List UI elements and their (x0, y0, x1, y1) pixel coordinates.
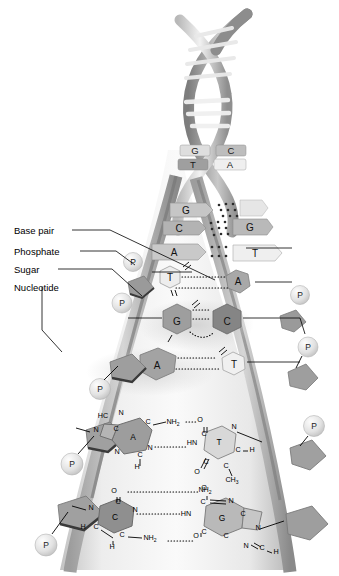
ladder-base-left-2: A (171, 247, 178, 258)
svg-text:C: C (113, 424, 118, 433)
svg-text:N: N (243, 541, 248, 550)
label-base-pair: Base pair (14, 225, 54, 236)
svg-text:P: P (69, 459, 75, 469)
double-helix-top (178, 14, 247, 232)
svg-text:O: O (201, 483, 207, 492)
svg-text:P: P (297, 290, 303, 300)
ladder-base-right-1: G (246, 222, 254, 233)
svg-text:C: C (145, 417, 150, 426)
phosphate-circle: P (112, 293, 132, 313)
phosphate-circle: P (35, 534, 57, 556)
svg-text:N: N (147, 443, 152, 452)
svg-text:H: H (80, 522, 85, 531)
dna-diagram: G C T A G C G A (0, 0, 339, 576)
sugar-pentagon (286, 506, 328, 540)
svg-text:P: P (97, 384, 103, 394)
svg-text:P: P (311, 421, 317, 431)
label-sugar: Sugar (14, 264, 39, 275)
ladder-base-left-1: C (175, 223, 182, 234)
phosphate-circle: P (298, 337, 318, 357)
svg-text:N: N (88, 503, 93, 512)
svg-text:N: N (132, 505, 137, 514)
svg-text:P: P (119, 298, 125, 308)
svg-text:C: C (223, 531, 228, 540)
chem-base-g: G (219, 513, 226, 523)
hex-base-right-1: C (223, 316, 230, 327)
helix-base-left-1: T (190, 159, 196, 170)
backbone-right: P P P (280, 286, 326, 471)
phosphate-circle: P (124, 253, 143, 272)
svg-text:C: C (259, 543, 264, 552)
svg-text:N: N (93, 425, 98, 434)
svg-text:N: N (118, 408, 123, 417)
chem-imine-t: HN (187, 438, 197, 447)
svg-text:H: H (109, 542, 114, 551)
ladder-base-left-0: G (182, 205, 190, 216)
svg-text:C: C (240, 509, 245, 518)
helix-base-right-0: C (228, 145, 235, 156)
svg-text:O: O (111, 486, 117, 495)
svg-text:N: N (228, 496, 233, 505)
chem-base-t: T (216, 437, 221, 447)
hex-base-left-1: G (173, 316, 181, 327)
phosphate-circle: P (61, 453, 83, 475)
chem-base-a: A (130, 432, 136, 442)
svg-text:C: C (119, 530, 124, 539)
svg-text:O: O (197, 415, 203, 424)
ladder-base-right-2: T (252, 248, 258, 259)
chem-imine-g: HN (181, 509, 191, 518)
label-nucleotide: Nucleotide (14, 282, 59, 293)
svg-text:C: C (235, 445, 240, 454)
svg-text:C: C (93, 522, 98, 531)
svg-text:C: C (137, 450, 142, 459)
helix-base-right-1: A (227, 159, 234, 170)
hex-base-left-0: T (167, 272, 173, 283)
svg-text:P: P (43, 540, 49, 550)
phosphate-circle: P (291, 286, 310, 305)
svg-text:H: H (249, 445, 254, 454)
svg-text:H: H (134, 462, 139, 471)
svg-text:N: N (255, 523, 260, 532)
svg-text:C: C (223, 461, 228, 470)
chem-base-c: C (112, 512, 118, 522)
helix-base-left-0: G (191, 145, 198, 156)
svg-text:O: O (193, 531, 199, 540)
hex-base-right-0: A (235, 276, 242, 287)
svg-text:C: C (201, 527, 206, 536)
label-phosphate: Phosphate (14, 246, 59, 257)
phosphate-circle: P (304, 416, 325, 437)
svg-text:C: C (200, 497, 205, 506)
svg-text:N: N (231, 422, 236, 431)
phosphate-circle: P (90, 379, 111, 400)
svg-text:P: P (305, 342, 311, 352)
svg-text:N: N (114, 447, 119, 456)
svg-text:H: H (273, 547, 278, 556)
svg-text:O: O (194, 467, 200, 476)
svg-text:HC: HC (98, 411, 108, 420)
hex-base-left-2: A (154, 360, 161, 371)
hex-base-right-2: T (231, 359, 237, 370)
